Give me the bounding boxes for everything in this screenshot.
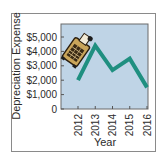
y-tick-label: $4,000: [26, 46, 57, 57]
y-tick-label: 0: [51, 104, 57, 115]
x-tick-label: 2012: [73, 114, 84, 137]
x-axis-label: Year: [94, 136, 117, 148]
y-tick-label: $3,000: [26, 60, 57, 71]
x-tick-label: 2015: [124, 114, 135, 137]
y-axis-ticks: 0$1,000$2,000$3,000$4,000$5,000: [26, 32, 64, 115]
x-axis-ticks: 20122013201420152016: [73, 106, 153, 136]
x-tick-label: 2014: [107, 114, 118, 137]
x-tick-label: 2016: [142, 114, 153, 137]
line-chart: Depreciation Expense Year 0$1,000$2,000$…: [0, 0, 166, 162]
x-tick-label: 2013: [90, 114, 101, 137]
y-tick-label: $1,000: [26, 89, 57, 100]
y-tick-label: $2,000: [26, 75, 57, 86]
y-tick-label: $5,000: [26, 32, 57, 43]
y-axis-label: Depreciation Expense: [10, 12, 22, 120]
